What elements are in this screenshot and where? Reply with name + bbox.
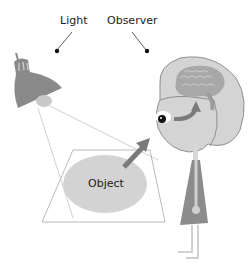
body-button: [192, 206, 200, 214]
lamp-icon: [14, 53, 62, 108]
body-dress: [180, 160, 208, 225]
legs: [178, 225, 198, 258]
eye-icon: [155, 111, 171, 123]
diagram-svg: [0, 0, 251, 267]
observer-head: [155, 57, 244, 152]
light-pointer: [55, 32, 72, 53]
label-object: Object: [88, 177, 124, 190]
label-observer: Observer: [107, 14, 157, 27]
perception-diagram: Light Observer Object: [0, 0, 251, 267]
gaze-arrow: [124, 138, 150, 167]
neck: [193, 144, 198, 160]
observer-pointer: [132, 32, 149, 53]
label-light: Light: [60, 14, 87, 27]
